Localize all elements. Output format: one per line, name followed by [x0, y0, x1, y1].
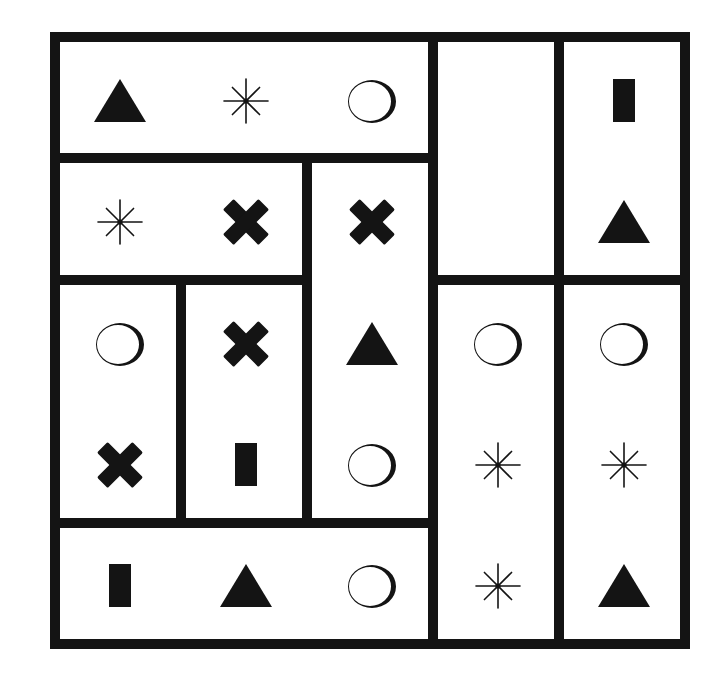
region-g	[176, 275, 312, 528]
asterisk-icon	[218, 77, 274, 125]
hollow-circle-icon	[596, 320, 652, 368]
hollow-circle-icon	[470, 320, 526, 368]
filled-rectangle-icon	[596, 77, 652, 125]
bold-cross-icon	[344, 198, 400, 246]
hollow-circle-icon	[344, 562, 400, 610]
hollow-circle-icon	[92, 320, 148, 368]
asterisk-icon	[470, 562, 526, 610]
bold-cross-icon	[218, 198, 274, 246]
filled-triangle-icon	[344, 320, 400, 368]
filled-triangle-icon	[596, 198, 652, 246]
filled-rectangle-icon	[218, 441, 274, 489]
hollow-circle-icon	[344, 77, 400, 125]
asterisk-icon	[596, 441, 652, 489]
filled-triangle-icon	[218, 562, 274, 610]
filled-triangle-icon	[596, 562, 652, 610]
region-f	[50, 275, 186, 528]
puzzle-board	[0, 0, 723, 681]
filled-rectangle-icon	[92, 562, 148, 610]
asterisk-icon	[470, 441, 526, 489]
bold-cross-icon	[218, 320, 274, 368]
asterisk-icon	[92, 198, 148, 246]
filled-triangle-icon	[92, 77, 148, 125]
region-b	[428, 32, 564, 285]
hollow-circle-icon	[344, 441, 400, 489]
region-c	[554, 32, 690, 285]
bold-cross-icon	[92, 441, 148, 489]
